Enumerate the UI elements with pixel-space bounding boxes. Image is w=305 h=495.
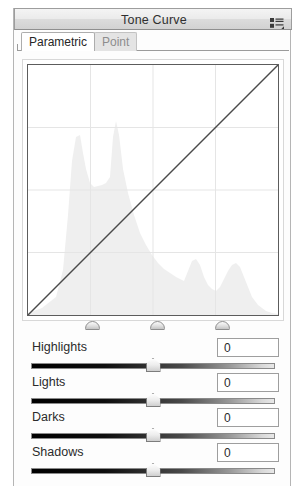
slider-handle-darks[interactable] <box>146 428 161 442</box>
slider-track-shadows[interactable] <box>31 467 275 476</box>
tab-parametric-label: Parametric <box>29 35 87 49</box>
tab-bar: Parametric Point <box>14 30 292 51</box>
slider-row-lights: Lights 0 <box>14 373 292 408</box>
tone-curve-plot <box>28 65 278 315</box>
slider-handle-highlights[interactable] <box>146 358 161 372</box>
tab-point[interactable]: Point <box>94 32 137 51</box>
slider-row-highlights: Highlights 0 <box>14 338 292 373</box>
split-point-handles <box>22 321 284 335</box>
page-title: Tone Curve <box>15 9 293 31</box>
panel-titlebar: Tone Curve <box>14 8 292 30</box>
slider-row-shadows: Shadows 0 <box>14 443 292 478</box>
slider-label-darks: Darks <box>32 410 65 424</box>
slider-value-shadows[interactable]: 0 <box>217 443 279 462</box>
slider-value-highlights[interactable]: 0 <box>217 338 279 357</box>
slider-track-highlights[interactable] <box>31 362 275 371</box>
slider-handle-lights[interactable] <box>146 393 161 407</box>
tone-curve-graph[interactable] <box>27 64 279 316</box>
tone-curve-panel: Tone Curve Parametric Point <box>13 8 291 486</box>
tone-curve-graph-frame <box>22 59 284 321</box>
slider-handle-shadows[interactable] <box>146 463 161 477</box>
panel-menu-icon[interactable] <box>270 15 284 26</box>
slider-value-lights[interactable]: 0 <box>217 373 279 392</box>
split-handle-highlights[interactable] <box>215 321 230 330</box>
slider-label-highlights: Highlights <box>32 340 87 354</box>
split-handle-shadows[interactable] <box>85 321 100 330</box>
parametric-sliders: Highlights 0 Lights 0 Darks 0 Shado <box>14 338 292 478</box>
slider-track-lights[interactable] <box>31 397 275 406</box>
tab-point-label: Point <box>102 35 129 49</box>
split-handle-midtone[interactable] <box>150 321 165 330</box>
slider-track-darks[interactable] <box>31 432 275 441</box>
slider-row-darks: Darks 0 <box>14 408 292 443</box>
tab-parametric[interactable]: Parametric <box>21 32 95 51</box>
slider-label-lights: Lights <box>32 375 65 389</box>
slider-value-darks[interactable]: 0 <box>217 408 279 427</box>
slider-label-shadows: Shadows <box>32 445 83 459</box>
